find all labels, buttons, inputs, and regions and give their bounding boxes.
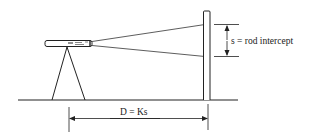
leveling-rod	[204, 11, 211, 100]
distance-label: D = Ks	[120, 107, 148, 117]
sight-lines	[92, 25, 205, 57]
telescope	[45, 41, 92, 47]
stadia-diagram: s = rod intercept D = Ks	[0, 0, 312, 139]
rod-intercept-label: s = rod intercept	[231, 36, 293, 46]
tripod	[52, 47, 85, 100]
